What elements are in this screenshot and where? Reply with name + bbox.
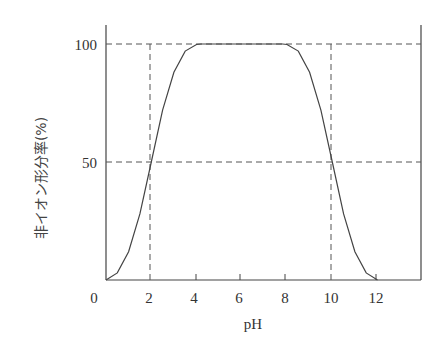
reference-lines [106,44,421,280]
x-tick-8: 8 [281,290,289,306]
x-axis-label: pH [244,316,263,332]
y-tick-100: 100 [75,37,98,53]
chart: 0 2 4 6 8 10 12 50 100 pH 非イオン形分率(%) [0,0,438,350]
x-tick-6: 6 [235,290,243,306]
x-tick-12: 12 [369,290,384,306]
x-tick-10: 10 [324,290,339,306]
x-tick-0: 0 [90,290,98,306]
y-axis-label: 非イオン形分率(%) [33,117,49,239]
x-tick-4: 4 [190,290,198,306]
y-tick-50: 50 [82,155,97,171]
x-ticks [196,274,376,280]
x-tick-2: 2 [145,290,153,306]
